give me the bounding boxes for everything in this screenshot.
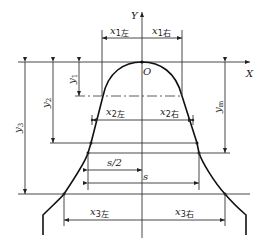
s-dimension: s/2 s (88, 153, 199, 190)
y-axis-label: Y (131, 10, 139, 21)
x3-right-label: x3右 (175, 206, 194, 219)
x2-dimension: x2左 x2右 (92, 106, 193, 125)
x2-right-label: x2右 (160, 106, 179, 119)
y2-label: y2 (40, 98, 53, 109)
s-label: s (143, 171, 148, 182)
profile-dimension-diagram: Y X O x1左 x1右 x2左 x2右 (0, 0, 266, 242)
y1-label: y1 (66, 74, 79, 85)
ym-label: ym (212, 100, 225, 114)
y2-dimension: y2 (40, 62, 53, 143)
x-axis-label: X (245, 68, 254, 79)
y3-label: y3 (12, 123, 25, 134)
x1-right-label: x1右 (152, 25, 171, 38)
x1-left-label: x1左 (110, 25, 129, 38)
origin-label: O (143, 66, 151, 77)
s-half-label: s/2 (107, 157, 122, 168)
y3-dimension: y3 (12, 62, 25, 194)
y1-dimension: y1 (66, 62, 79, 96)
ym-dimension: ym (212, 62, 225, 153)
profile-curve (43, 62, 246, 235)
x2-left-label: x2左 (106, 106, 125, 119)
x3-left-label: x3左 (90, 206, 109, 219)
x3-dimension: x3左 x3右 (64, 194, 225, 226)
